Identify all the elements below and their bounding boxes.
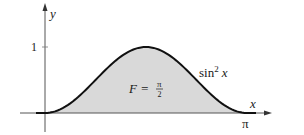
x-tick-label-pi: π: [242, 116, 249, 131]
shaded-area-region: [45, 47, 247, 113]
area-label-left: F =: [128, 81, 149, 96]
y-axis-label: y: [48, 6, 56, 21]
y-axis-arrow-icon: [43, 3, 48, 11]
curve-label-exp: 2: [214, 64, 219, 74]
curve-label-fn: sin: [199, 65, 215, 80]
sin-squared-area-chart: y 1 x π sin2x F = π 2: [0, 0, 304, 135]
x-axis-arrow-icon: [264, 111, 272, 116]
area-label-denominator: 2: [158, 90, 162, 99]
x-axis-label: x: [249, 96, 256, 111]
area-label-numerator: π: [157, 79, 162, 89]
chart-canvas: y 1 x π sin2x F = π 2: [0, 0, 304, 135]
curve-label-var: x: [221, 65, 228, 80]
curve-label: sin2x: [199, 64, 228, 80]
y-tick-label-1: 1: [31, 40, 37, 54]
